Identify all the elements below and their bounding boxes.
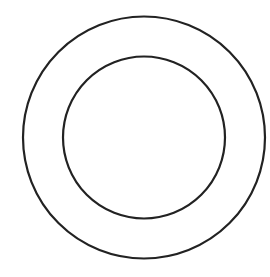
outer-circle	[23, 17, 265, 259]
concentric-circles-diagram	[0, 0, 270, 277]
inner-circle	[63, 57, 225, 219]
